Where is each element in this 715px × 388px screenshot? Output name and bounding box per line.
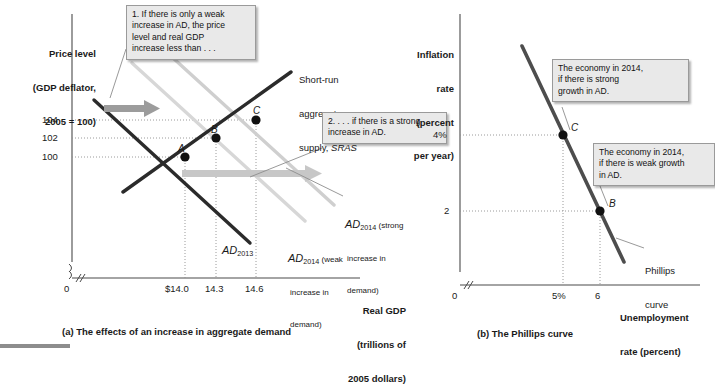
callout-strong-leader xyxy=(562,107,570,130)
curve-ad2014-weak xyxy=(132,63,305,221)
panel-a-xtick-14-6: 14.6 xyxy=(245,283,264,294)
callout-weak-increase: 1. If there is only a weak increase in A… xyxy=(126,5,256,60)
panel-a-y-axis-title-line2: (GDP deflator, xyxy=(4,82,96,93)
panel-a-point-c-label: C xyxy=(253,105,260,117)
panel-a-point-b-label: B xyxy=(211,124,218,136)
panel-b-xtick-5: 5% xyxy=(552,290,566,301)
ad2014-weak-curve-label: AD2014 (weak increase in demand) xyxy=(288,230,343,351)
callout-weak-growth: The economy in 2014, if there is weak gr… xyxy=(593,143,715,186)
panel-b-ytick-4: 4% xyxy=(433,129,447,140)
panel-b-point-b-label: B xyxy=(609,198,616,210)
panel-a-xtick-14-3: 14.3 xyxy=(205,283,224,294)
panel-b-gridlines xyxy=(460,135,600,285)
panel-b-ytick-2: 2 xyxy=(444,205,449,216)
ad2014-strong-base: AD xyxy=(345,218,360,230)
phillips-curve-label: Phillips curve xyxy=(645,243,675,333)
ad2013-base: AD xyxy=(222,244,237,256)
ad2013-curve-label: AD2013 xyxy=(222,244,253,257)
callout-1-leader xyxy=(110,49,126,98)
ad2013-subscript: 2013 xyxy=(237,249,253,258)
callout-weak-leader xyxy=(600,186,608,206)
ad2014-weak-note-line3: demand) xyxy=(290,320,343,329)
ad2014-weak-base: AD xyxy=(288,252,303,264)
panel-a-y-axis-title: Price level (GDP deflator, 2005 = 100) xyxy=(4,26,96,149)
panel-a-ytick-100: 100 xyxy=(42,151,58,162)
point-c-marker-b xyxy=(558,130,567,139)
ad2014-strong-note-line2: increase in xyxy=(347,254,403,263)
panel-b-origin-label: 0 xyxy=(452,290,457,301)
panel-b-point-c-label: C xyxy=(571,122,578,134)
ad2014-weak-subscript: 2014 xyxy=(303,257,319,266)
callout-strong-growth: The economy in 2014, if there is strong … xyxy=(552,59,689,102)
ad2014-strong-note-line3: demand) xyxy=(347,286,403,295)
ad2014-weak-note-line2: increase in xyxy=(290,288,343,297)
panel-b-y-axis-title-line4: per year) xyxy=(392,150,454,161)
shift-arrow-weak xyxy=(104,100,160,117)
panel-b-y-axis-title-line3: (percent xyxy=(392,117,454,128)
panel-a-caption: (a) The effects of an increase in aggreg… xyxy=(62,326,291,337)
panel-a-ytick-102: 102 xyxy=(42,132,58,143)
panel-a-x-axis-title-line3: 2005 dollars) xyxy=(310,373,406,384)
panel-b-y-axis-title: Inflation rate (percent per year) xyxy=(392,27,454,184)
ad2014-strong-note-line1: (strong xyxy=(376,221,403,230)
panel-a-y-axis-title-line1: Price level xyxy=(4,48,96,59)
ad2014-strong-curve-label: AD2014 (strong increase in demand) xyxy=(345,196,403,317)
panel-b-x-axis-title-line2: rate (percent) xyxy=(620,346,689,357)
sras-label-line1: Short-run xyxy=(299,74,357,85)
panel-b-caption: (b) The Phillips curve xyxy=(477,328,573,339)
phillips-curve-label-line1: Phillips xyxy=(645,265,675,276)
panel-a-xtick-14-0: $14.0 xyxy=(165,283,189,294)
ad2014-weak-note-line1: (weak xyxy=(319,255,343,264)
point-b-marker-b xyxy=(595,206,604,215)
panel-b-y-axis-title-line2: rate xyxy=(392,83,454,94)
phillips-label-leader xyxy=(616,238,644,248)
bottom-rule-decoration xyxy=(0,344,70,348)
panel-b-y-axis-title-line1: Inflation xyxy=(392,49,454,60)
phillips-curve-label-line2: curve xyxy=(645,299,675,310)
panel-a-ytick-104: 104 xyxy=(42,114,58,125)
panel-a-origin-label: 0 xyxy=(64,283,69,294)
panel-b-xtick-6: 6 xyxy=(595,290,600,301)
ad2014-strong-subscript: 2014 xyxy=(360,223,376,232)
panel-a-point-a-label: A xyxy=(178,143,185,155)
